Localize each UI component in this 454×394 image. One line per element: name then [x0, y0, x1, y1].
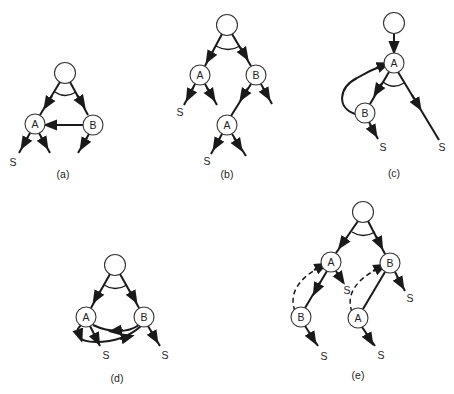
root-node — [105, 255, 126, 276]
arrow-A-S — [412, 95, 418, 105]
and-or-graph-figure: A B S (a) A B A S S (b) — [0, 0, 454, 394]
node-A2-label: A — [354, 312, 361, 324]
arrow-B-right — [263, 88, 267, 95]
arrow-dashed-B2-A — [314, 266, 322, 270]
edge-root-B — [120, 274, 139, 308]
arrow-root-A — [209, 51, 213, 58]
edge-A-S — [398, 72, 439, 140]
panel-c: A B S S (c) — [342, 13, 445, 180]
arrow-dashed-A2-B — [373, 267, 381, 271]
and-arc — [383, 82, 404, 86]
terminal-S: S — [379, 141, 386, 153]
caption-a: (a) — [57, 168, 70, 180]
terminal-S: S — [343, 284, 350, 296]
arrow-A2-S — [216, 138, 220, 145]
node-B-label: B — [89, 119, 96, 131]
node-A-label: A — [196, 69, 203, 81]
arrow-root-B — [376, 236, 380, 244]
edge-B-A2 — [363, 272, 385, 309]
and-arc — [352, 232, 375, 236]
root-node — [217, 15, 238, 36]
caption-e: (e) — [352, 369, 365, 381]
arrow-root-A — [342, 237, 347, 244]
root-node — [353, 202, 374, 223]
arrow-A-S — [189, 88, 193, 96]
panel-d: A B S S (d) — [76, 255, 169, 385]
edge-root-A — [205, 34, 222, 66]
terminal-S: S — [9, 156, 16, 168]
panel-e: A B B A S S S S (e) — [291, 202, 414, 382]
and-arc — [55, 92, 76, 96]
node-A-label: A — [31, 118, 38, 130]
caption-d: (d) — [111, 372, 124, 384]
node-B2-label: B — [297, 311, 304, 323]
arrow-B-S — [151, 331, 155, 338]
terminal-S: S — [377, 349, 384, 361]
terminal-S: S — [161, 349, 168, 361]
node-A2-label: A — [223, 119, 230, 131]
arrow-B-A — [115, 330, 123, 331]
caption-c: (c) — [388, 167, 400, 179]
node-B-label: B — [140, 311, 147, 323]
arrow-A-S — [24, 137, 28, 144]
and-arc — [216, 46, 240, 50]
arrow-root-B — [77, 95, 82, 103]
and-arc — [104, 285, 127, 289]
caption-b: (b) — [221, 168, 234, 180]
panel-a: A B S (a) — [9, 63, 103, 181]
terminal-S: S — [203, 155, 210, 167]
terminal-S: S — [438, 141, 445, 153]
panel-b: A B A S S (b) — [176, 15, 272, 181]
arrow-loop-B-A — [376, 65, 384, 68]
arrow-A-right — [207, 88, 212, 96]
node-B-label: B — [361, 107, 368, 119]
terminal-S: S — [320, 350, 327, 362]
arrow-B2-S — [309, 332, 313, 339]
node-B-label: B — [386, 257, 393, 269]
edge-A-B — [77, 325, 141, 342]
terminal-S: S — [102, 349, 109, 361]
arrow-root-A — [47, 96, 52, 104]
node-A-label: A — [327, 256, 334, 268]
terminal-S: S — [406, 292, 413, 304]
root-node — [55, 63, 76, 84]
arrow-B-A2 — [243, 88, 248, 96]
arrow-A-right — [41, 137, 45, 144]
node-A-label: A — [82, 311, 89, 323]
terminal-S: S — [176, 106, 183, 118]
arrow-root-B — [240, 47, 245, 55]
node-B-label: B — [252, 69, 259, 81]
root-node — [384, 13, 405, 34]
node-A-label: A — [390, 57, 397, 69]
edge-root-A — [91, 274, 110, 308]
arrow-A-S — [94, 334, 97, 340]
arrow-A-B2 — [316, 282, 320, 290]
